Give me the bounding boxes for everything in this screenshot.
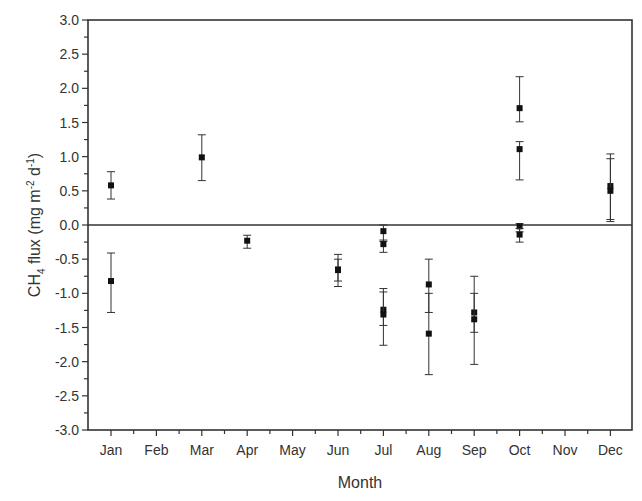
y-tick-label: 1.0 bbox=[60, 149, 80, 165]
x-tick-label: Jan bbox=[100, 442, 123, 458]
square-marker bbox=[471, 316, 477, 322]
data-point bbox=[107, 253, 115, 312]
square-marker bbox=[517, 232, 523, 238]
y-tick-label: -2.0 bbox=[55, 354, 79, 370]
ch4-flux-chart: 3.02.52.01.51.00.50.0-0.5-1.0-1.5-2.0-2.… bbox=[0, 0, 642, 501]
x-tick-label: Mar bbox=[190, 442, 214, 458]
y-tick-label: -1.5 bbox=[55, 320, 79, 336]
x-tick-label: Jul bbox=[374, 442, 392, 458]
y-tick-label: 2.0 bbox=[60, 80, 80, 96]
y-tick-label: -0.5 bbox=[55, 251, 79, 267]
square-marker bbox=[426, 281, 432, 287]
data-point bbox=[334, 259, 342, 281]
data-point bbox=[470, 293, 478, 364]
x-tick-label: Aug bbox=[416, 442, 441, 458]
y-tick-label: 0.5 bbox=[60, 183, 80, 199]
x-tick-label: Sep bbox=[462, 442, 487, 458]
data-point bbox=[198, 135, 206, 181]
square-marker bbox=[108, 182, 114, 188]
x-tick-label: Dec bbox=[598, 442, 623, 458]
square-marker bbox=[426, 331, 432, 337]
y-tick-label: 2.5 bbox=[60, 46, 80, 62]
data-point bbox=[107, 172, 115, 199]
square-marker bbox=[108, 278, 114, 284]
square-marker bbox=[199, 154, 205, 160]
data-point bbox=[379, 240, 387, 252]
data-point bbox=[606, 159, 614, 222]
y-tick-label: -2.5 bbox=[55, 388, 79, 404]
x-tick-label: Apr bbox=[236, 442, 258, 458]
x-tick-label: May bbox=[279, 442, 305, 458]
square-marker bbox=[244, 238, 250, 244]
square-marker bbox=[380, 228, 386, 234]
y-tick-label: 0.0 bbox=[60, 217, 80, 233]
y-tick-label: 3.0 bbox=[60, 12, 80, 28]
x-tick-label: Nov bbox=[553, 442, 578, 458]
data-point bbox=[516, 77, 524, 122]
x-tick-label: Jun bbox=[327, 442, 350, 458]
x-tick-label: Feb bbox=[144, 442, 168, 458]
square-marker bbox=[517, 105, 523, 111]
square-marker bbox=[517, 146, 523, 152]
square-marker bbox=[607, 188, 613, 194]
x-tick-label: Oct bbox=[509, 442, 531, 458]
data-point bbox=[243, 235, 251, 248]
data-point bbox=[379, 225, 387, 241]
y-tick-label: 1.5 bbox=[60, 115, 80, 131]
square-marker bbox=[335, 267, 341, 273]
square-marker bbox=[380, 312, 386, 318]
data-point bbox=[516, 142, 524, 180]
y-tick-label: -3.0 bbox=[55, 422, 79, 438]
data-point bbox=[516, 228, 524, 242]
data-point bbox=[425, 293, 433, 374]
square-marker bbox=[380, 241, 386, 247]
y-tick-label: -1.0 bbox=[55, 285, 79, 301]
y-axis-ticks: 3.02.52.01.51.00.50.0-0.5-1.0-1.5-2.0-2.… bbox=[55, 12, 88, 438]
x-axis-title: Month bbox=[338, 474, 382, 491]
x-axis-ticks: JanFebMarAprMayJunJulAugSepOctNovDec bbox=[100, 430, 623, 458]
y-axis-title: CH4 flux (mg m-2 d-1) bbox=[25, 153, 47, 297]
